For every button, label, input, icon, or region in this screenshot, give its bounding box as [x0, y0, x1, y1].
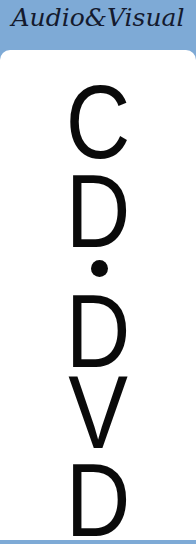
- header-band: Audio&Visual: [0, 0, 196, 52]
- letter-d-1: D: [14, 159, 183, 263]
- header-title: Audio&Visual: [0, 1, 196, 35]
- sign-panel: C D D V D: [0, 50, 196, 540]
- letter-d-3: D: [14, 448, 183, 544]
